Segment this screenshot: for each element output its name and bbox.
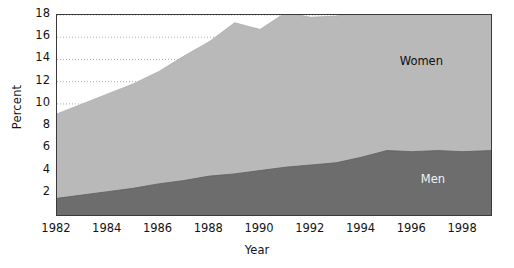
y-tick-10: 10: [0, 97, 50, 107]
y-tick-18: 18: [0, 8, 50, 18]
y-tick-16: 16: [0, 30, 50, 40]
series-label-men: Men: [421, 172, 445, 186]
plot-area: Women Men: [56, 14, 492, 216]
y-tick-14: 14: [0, 52, 50, 62]
y-tick-2: 2: [0, 186, 50, 196]
y-tick-6: 6: [0, 141, 50, 151]
y-tick-12: 12: [0, 75, 50, 85]
y-tick-4: 4: [0, 164, 50, 174]
x-tick-1998: 1998: [432, 221, 492, 235]
series-label-women: Women: [400, 54, 443, 68]
x-axis-title: Year: [0, 243, 514, 257]
chart-figure: Percent 24681012141618 Women Men 1982198…: [0, 0, 514, 268]
y-tick-8: 8: [0, 119, 50, 129]
